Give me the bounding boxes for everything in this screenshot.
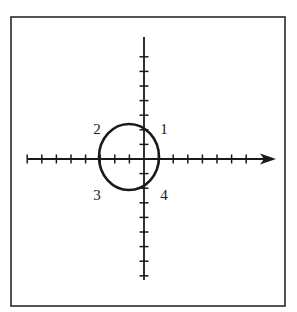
label-quadrant-1: 1: [160, 122, 168, 137]
diagram-stage: 1 2 3 4: [0, 0, 297, 312]
diagram-frame: [11, 17, 285, 306]
axes-group: [27, 37, 276, 280]
label-quadrant-4: 4: [160, 188, 168, 203]
label-quadrant-3: 3: [93, 188, 101, 203]
coordinate-diagram: [0, 0, 297, 312]
label-quadrant-2: 2: [93, 122, 101, 137]
